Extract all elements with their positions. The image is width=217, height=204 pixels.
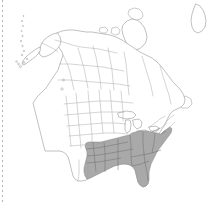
arctic-islet-a — [111, 27, 120, 35]
aleutian-islet-3 — [16, 61, 18, 63]
aleutian-islet-2 — [18, 63, 20, 65]
vancouver-islet — [61, 88, 63, 90]
aleutian-islet-7 — [23, 50, 24, 51]
lake-ontario — [149, 126, 159, 131]
aleutian-islet-4 — [23, 62, 25, 64]
aleutian-islet-8 — [22, 45, 23, 46]
aleutian-islet-10 — [22, 35, 23, 36]
aleutian-islet-1 — [19, 65, 21, 67]
lake-michigan — [125, 120, 131, 133]
aleutian-islet-13 — [21, 20, 22, 21]
aleutian-islet-14 — [23, 15, 24, 16]
aleutian-islet-11 — [21, 30, 22, 31]
aleutian-islet-9 — [20, 40, 21, 41]
distribution-map-figure — [0, 0, 217, 204]
arctic-islet-b — [99, 27, 108, 33]
alaska-outline — [39, 33, 61, 57]
aleutian-islet-6 — [21, 54, 23, 56]
aleutian-islet-12 — [22, 25, 23, 26]
ellesmere-island-outline — [128, 8, 143, 20]
north-america-map — [0, 0, 217, 204]
aleutian-islet-5 — [26, 58, 28, 60]
greenland-outline — [191, 4, 206, 33]
